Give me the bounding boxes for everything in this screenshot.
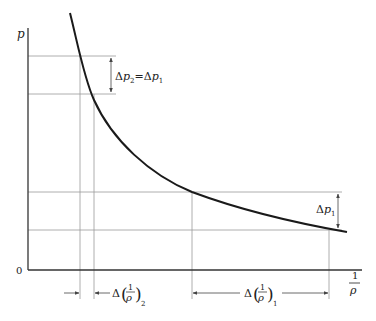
svg-text:Δ: Δ [112, 287, 120, 300]
svg-text:1: 1 [352, 270, 358, 281]
svg-text:ρ: ρ [257, 292, 264, 303]
svg-text:1: 1 [128, 283, 133, 292]
svg-text:1: 1 [273, 300, 277, 308]
svg-text:ρ: ρ [349, 284, 357, 297]
svg-text:ρ: ρ [125, 292, 132, 303]
axes [28, 28, 362, 270]
horizontal-guides [28, 56, 342, 230]
delta-inv-rho-1-label: Δ ( 1 ρ ) 1 [244, 283, 277, 308]
svg-text:Δp2=Δp1: Δp2=Δp1 [115, 70, 163, 85]
delta-p2-equals-delta-p1-label: Δp2=Δp1 [115, 70, 163, 85]
svg-text:Δp1: Δp1 [316, 203, 335, 218]
svg-text:Δ: Δ [244, 287, 252, 300]
delta-inv-rho-2-label: Δ ( 1 ρ ) 2 [112, 283, 145, 308]
origin-label: 0 [16, 265, 22, 276]
pressure-curve [70, 13, 347, 232]
svg-text:1: 1 [260, 283, 265, 292]
diagram-canvas: p 0 1 ρ Δp2=Δp1 Δp1 Δ ( 1 ρ ) 2 Δ ( 1 ρ … [0, 0, 376, 321]
delta-p1-label: Δp1 [316, 203, 335, 218]
svg-text:2: 2 [141, 300, 145, 308]
x-axis-label: 1 ρ [349, 270, 360, 297]
vertical-guides [80, 56, 329, 299]
y-axis-label: p [17, 27, 25, 41]
